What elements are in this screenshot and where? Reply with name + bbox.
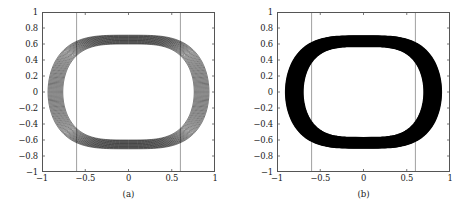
panel-a-orbit-curve bbox=[50, 36, 207, 147]
panel-a: 10.80.60.40.20−0.2−0.4−0.6−0.8−1 −1−0.50… bbox=[0, 0, 235, 214]
panel-b-xtick-label: −1 bbox=[271, 174, 283, 182]
panel-b-orbit-curve bbox=[298, 43, 430, 141]
panel-b-ytick-label: 0.6 bbox=[260, 40, 273, 48]
panel-b-caption: (b) bbox=[277, 190, 450, 199]
panel-b-xtick-label: 1 bbox=[447, 174, 452, 182]
panel-a-ytick-label: −0.6 bbox=[18, 136, 38, 144]
panel-b-orbit-curve bbox=[299, 44, 427, 139]
panel-b-orbit-curves bbox=[286, 36, 442, 148]
panel-b-ytick-label: 0.4 bbox=[260, 56, 273, 64]
panel-b-orbit-curve bbox=[302, 46, 426, 139]
panel-b-svg bbox=[277, 12, 450, 172]
panel-a-xtick-label: 0 bbox=[126, 174, 131, 182]
panel-b-orbit-curve bbox=[301, 45, 426, 138]
panel-a-orbit-curve bbox=[62, 43, 195, 140]
panel-b-ytick-label: 0.2 bbox=[260, 72, 273, 80]
panel-b-ytick-label: −0.4 bbox=[253, 120, 273, 128]
panel-b-orbit-curve bbox=[297, 43, 431, 142]
panel-a-ytick-label: 0.2 bbox=[25, 72, 38, 80]
panel-a-ytick-label: 1 bbox=[33, 8, 38, 16]
panel-a-ytick-label: 0.4 bbox=[25, 56, 38, 64]
panel-b-orbit-curve bbox=[301, 45, 427, 139]
panel-a-x-axis-labels: −1−0.500.51 bbox=[42, 174, 215, 188]
panel-a-orbit-curve bbox=[58, 41, 199, 143]
panel-b-y-axis-labels: 10.80.60.40.20−0.2−0.4−0.6−0.8−1 bbox=[235, 12, 273, 172]
panel-a-ytick-label: −0.4 bbox=[18, 120, 38, 128]
panel-b-plot-area bbox=[277, 12, 450, 172]
panel-b-ytick-label: −0.6 bbox=[253, 136, 273, 144]
panel-a-orbit-curves bbox=[48, 35, 209, 149]
panel-a-xtick-label: 1 bbox=[212, 174, 217, 182]
panel-a-xtick-label: −1 bbox=[36, 174, 48, 182]
panel-b-xtick-label: 0.5 bbox=[400, 174, 413, 182]
panel-b-orbit-curve bbox=[303, 46, 424, 137]
panel-b-ytick-label: −0.8 bbox=[253, 152, 273, 160]
panel-a-orbit-curve bbox=[57, 40, 200, 143]
panel-b-ytick-label: 0.8 bbox=[260, 24, 273, 32]
panel-a-ytick-label: 0.8 bbox=[25, 24, 38, 32]
panel-b-orbit-curve bbox=[303, 46, 425, 138]
panel-b-orbit-curve bbox=[299, 44, 428, 140]
panel-a-ytick-label: 0 bbox=[33, 88, 38, 96]
panel-b-orbit-curve bbox=[302, 46, 425, 138]
panel-b-orbit-curve bbox=[297, 43, 430, 141]
panel-b-ytick-label: −0.2 bbox=[253, 104, 273, 112]
panel-b-ytick-label: 0 bbox=[268, 88, 273, 96]
panel-a-orbit-curve bbox=[56, 40, 201, 144]
panel-a-svg bbox=[42, 12, 215, 172]
panel-a-orbit-curve bbox=[63, 44, 194, 140]
panel-b-x-axis-labels: −1−0.500.51 bbox=[277, 174, 450, 188]
panel-a-plot-area bbox=[42, 12, 215, 172]
panel-a-orbit-curve bbox=[49, 36, 208, 148]
panel-a-orbit-curve bbox=[61, 43, 196, 141]
panel-a-xtick-label: −0.5 bbox=[75, 174, 95, 182]
panel-a-xtick-label: 0.5 bbox=[165, 174, 178, 182]
panel-a-ytick-label: 0.6 bbox=[25, 40, 38, 48]
panel-b-orbit-curve bbox=[300, 45, 426, 139]
panel-a-orbit-curve bbox=[60, 42, 197, 142]
panel-a-ytick-label: −0.2 bbox=[18, 104, 38, 112]
panel-b-orbit-curve bbox=[299, 44, 429, 141]
panel-b-xtick-label: 0 bbox=[361, 174, 366, 182]
panel-b-orbit-curve bbox=[298, 43, 429, 140]
figure-root: 10.80.60.40.20−0.2−0.4−0.6−0.8−1 −1−0.50… bbox=[0, 0, 471, 214]
panel-b-xtick-label: −0.5 bbox=[310, 174, 330, 182]
panel-a-caption: (a) bbox=[42, 190, 215, 199]
panel-a-ytick-label: −0.8 bbox=[18, 152, 38, 160]
panel-a-y-axis-labels: 10.80.60.40.20−0.2−0.4−0.6−0.8−1 bbox=[0, 12, 38, 172]
panel-b-orbit-curve bbox=[300, 45, 427, 140]
panel-a-orbit-curve bbox=[59, 42, 198, 143]
panel-b: 10.80.60.40.20−0.2−0.4−0.6−0.8−1 −1−0.50… bbox=[235, 0, 470, 214]
panel-b-ytick-label: 1 bbox=[268, 8, 273, 16]
panel-a-orbit-curve bbox=[48, 35, 209, 149]
